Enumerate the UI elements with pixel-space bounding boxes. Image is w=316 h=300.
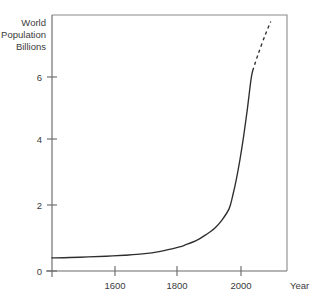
y-axis-title-line-3: Billions (16, 41, 46, 52)
chart-background (0, 0, 316, 300)
y-tick-label-4: 4 (37, 134, 42, 145)
x-axis-title: Year (290, 280, 309, 291)
y-axis-title-line-2: Population (1, 29, 46, 40)
x-tick-label-1800: 1800 (166, 280, 187, 291)
x-tick-label-1600: 1600 (104, 280, 125, 291)
y-axis-title-line-1: World (21, 17, 46, 28)
y-tick-label-6: 6 (37, 72, 42, 83)
y-tick-label-2: 2 (37, 200, 42, 211)
chart-container: 0 2 4 6 1600 1800 2000 Year World Popula… (0, 0, 316, 300)
y-tick-label-0: 0 (37, 266, 42, 277)
world-population-line-chart: 0 2 4 6 1600 1800 2000 Year World Popula… (0, 0, 316, 300)
x-tick-label-2000: 2000 (230, 280, 251, 291)
